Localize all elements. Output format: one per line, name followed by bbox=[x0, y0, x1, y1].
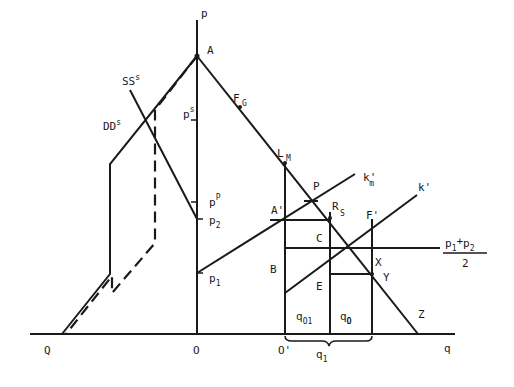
diagram-canvas: p A SSs DDs ps F G L M pP p2 p1 P A' R S… bbox=[0, 0, 514, 387]
k-prime-line bbox=[285, 195, 417, 293]
label-p-axis: p bbox=[201, 7, 208, 20]
label-q01: qO1 bbox=[296, 310, 312, 326]
q1-brace bbox=[285, 336, 372, 346]
label-l: L bbox=[277, 147, 284, 160]
label-b: B bbox=[270, 263, 277, 276]
label-q0: qOO bbox=[340, 310, 352, 326]
label-p2: p2 bbox=[209, 214, 221, 230]
label-f: F bbox=[233, 92, 240, 105]
label-e: E bbox=[316, 280, 323, 293]
label-avg-denominator: 2 bbox=[462, 257, 469, 270]
label-dd: DDs bbox=[103, 118, 121, 133]
label-s: S bbox=[340, 209, 345, 218]
label-pP: pP bbox=[209, 193, 221, 209]
label-x: X bbox=[375, 256, 382, 269]
label-ss: SSs bbox=[122, 73, 140, 88]
label-z: Z bbox=[418, 308, 425, 321]
label-p-point: P bbox=[313, 180, 320, 193]
label-q1: q1 bbox=[316, 348, 328, 364]
label-a-prime: A' bbox=[271, 204, 284, 217]
label-q-axis: q bbox=[444, 342, 451, 355]
label-origin-prime: O' bbox=[278, 344, 291, 357]
point-a bbox=[195, 54, 200, 59]
label-f-prime: F' bbox=[366, 209, 379, 222]
label-g: G bbox=[242, 99, 247, 108]
label-avg-numerator: p1+p2 bbox=[445, 235, 475, 253]
label-a: A bbox=[207, 44, 214, 57]
point-xy bbox=[370, 272, 374, 276]
label-k-m: k'm bbox=[363, 171, 376, 188]
dashed-curve bbox=[66, 56, 197, 334]
label-ps: ps bbox=[183, 105, 195, 121]
label-c: C bbox=[316, 232, 323, 245]
dd-s-curve bbox=[62, 56, 197, 334]
label-p1: p1 bbox=[209, 272, 221, 288]
demand-line-az bbox=[197, 56, 418, 334]
label-q-left: Q bbox=[44, 344, 51, 357]
label-r: R bbox=[332, 200, 339, 213]
label-y: Y bbox=[383, 271, 390, 284]
label-origin: O bbox=[193, 344, 200, 357]
label-m: M bbox=[286, 154, 291, 163]
label-k-prime: k' bbox=[418, 181, 431, 194]
point-rs bbox=[328, 216, 332, 220]
